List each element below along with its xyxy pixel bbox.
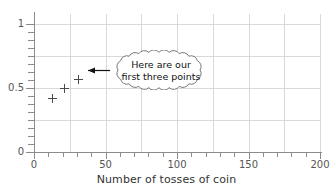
gridline-horizontal xyxy=(34,24,320,25)
y-tick-label: 0.5 xyxy=(0,83,24,93)
callout-text: Here are our first three points xyxy=(108,50,214,90)
y-tick-minor xyxy=(28,144,34,145)
y-tick-minor xyxy=(28,64,34,65)
y-tick-major xyxy=(26,88,34,89)
y-tick-minor xyxy=(28,48,34,49)
x-tick-major xyxy=(177,152,178,159)
y-tick-minor xyxy=(28,96,34,97)
y-tick-minor xyxy=(28,104,34,105)
x-tick-minor xyxy=(263,152,264,157)
x-tick-minor xyxy=(291,152,292,157)
x-tick-major xyxy=(249,152,250,159)
x-tick-minor xyxy=(77,152,78,157)
x-tick-label: 150 xyxy=(229,160,269,170)
plot-right-border xyxy=(320,14,321,152)
y-tick-minor xyxy=(28,32,34,33)
x-tick-minor xyxy=(191,152,192,157)
x-tick-label: 50 xyxy=(86,160,126,170)
x-tick-minor xyxy=(277,152,278,157)
y-tick-minor xyxy=(28,120,34,121)
x-tick-label: 0 xyxy=(14,160,54,170)
gridline-vertical xyxy=(70,14,71,152)
callout-arrow-icon xyxy=(81,66,111,75)
x-tick-major xyxy=(106,152,107,159)
x-tick-label: 200 xyxy=(300,160,333,170)
chart-canvas: 00.51050100150200 Here are our first thr… xyxy=(0,0,333,190)
callout-line-1: Here are our xyxy=(131,59,191,70)
x-tick-minor xyxy=(163,152,164,157)
y-axis-line xyxy=(34,12,35,154)
callout-bubble: Here are our first three points xyxy=(108,50,214,90)
x-tick-minor xyxy=(306,152,307,157)
gridline-vertical xyxy=(249,14,250,152)
y-tick-label: 1 xyxy=(0,19,24,29)
x-tick-minor xyxy=(63,152,64,157)
y-tick-minor xyxy=(28,72,34,73)
x-tick-minor xyxy=(206,152,207,157)
y-tick-label: 0 xyxy=(0,147,24,157)
x-tick-minor xyxy=(234,152,235,157)
y-tick-minor xyxy=(28,112,34,113)
gridline-horizontal xyxy=(34,120,320,121)
y-tick-major xyxy=(26,24,34,25)
y-tick-minor xyxy=(28,56,34,57)
x-tick-minor xyxy=(148,152,149,157)
x-tick-label: 100 xyxy=(157,160,197,170)
callout-line-2: first three points xyxy=(122,71,201,82)
gridline-vertical xyxy=(106,14,107,152)
x-tick-minor xyxy=(120,152,121,157)
x-tick-minor xyxy=(134,152,135,157)
x-tick-major xyxy=(320,152,321,159)
x-tick-minor xyxy=(48,152,49,157)
x-tick-minor xyxy=(220,152,221,157)
x-axis-title: Number of tosses of coin xyxy=(0,173,333,186)
y-tick-minor xyxy=(28,128,34,129)
data-point-marker xyxy=(60,84,69,93)
y-tick-minor xyxy=(28,80,34,81)
y-tick-major xyxy=(26,152,34,153)
y-tick-minor xyxy=(28,136,34,137)
gridline-vertical xyxy=(284,14,285,152)
y-tick-minor xyxy=(28,40,34,41)
data-point-marker xyxy=(74,75,83,84)
x-tick-minor xyxy=(91,152,92,157)
data-point-marker xyxy=(48,94,57,103)
x-tick-major xyxy=(34,152,35,159)
